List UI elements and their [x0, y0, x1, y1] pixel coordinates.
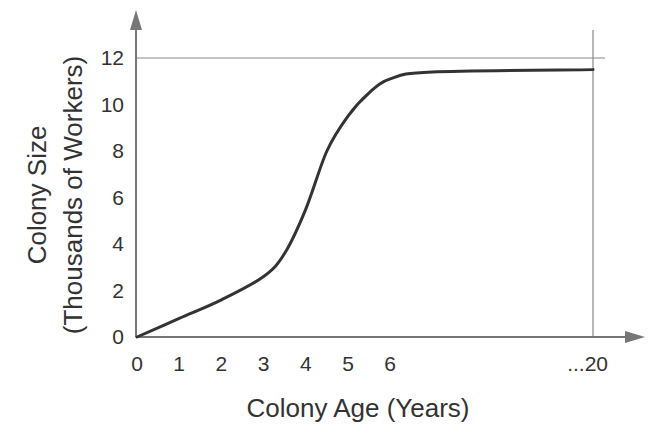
axes [130, 10, 645, 343]
y-axis-title-line1: Colony Size [22, 126, 52, 265]
reference-lines [136, 30, 605, 337]
x-tick-label: 6 [384, 352, 396, 375]
y-tick-label: 8 [112, 139, 124, 162]
x-tick-label: 0 [131, 352, 143, 375]
x-tick-labels: 0123456...20 [131, 352, 608, 375]
y-axis-arrow-icon [130, 10, 142, 30]
y-tick-labels: 024681012 [101, 46, 125, 348]
x-axis-arrow-icon [625, 331, 645, 343]
x-tick-label: ...20 [567, 352, 608, 375]
x-tick-label: 4 [300, 352, 312, 375]
y-tick-label: 2 [112, 279, 124, 302]
x-tick-label: 2 [216, 352, 228, 375]
x-tick-label: 3 [258, 352, 270, 375]
chart: 024681012 0123456...20 Colony Age (Years… [0, 0, 650, 437]
y-tick-label: 10 [101, 93, 124, 116]
x-tick-label: 1 [173, 352, 185, 375]
x-tick-label: 5 [342, 352, 354, 375]
y-axis-title-line2: (Thousands of Workers) [58, 56, 88, 334]
colony-size-curve [137, 70, 593, 337]
y-tick-label: 12 [101, 46, 124, 69]
y-tick-label: 6 [112, 186, 124, 209]
y-tick-label: 4 [112, 232, 124, 255]
y-tick-label: 0 [112, 325, 124, 348]
x-axis-title: Colony Age (Years) [246, 393, 469, 423]
